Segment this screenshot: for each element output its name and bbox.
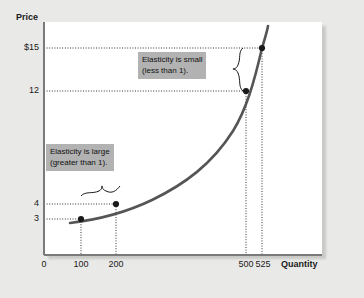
x-tick-label-200: 200 bbox=[101, 259, 131, 269]
y-axis-title: Price bbox=[16, 12, 38, 22]
data-point-200-4 bbox=[113, 201, 119, 207]
data-point-525-15 bbox=[259, 45, 265, 51]
x-tick-label-525: 525 bbox=[248, 259, 278, 269]
x-tick-label-100: 100 bbox=[66, 259, 96, 269]
annotation-small-elasticity: Elasticity is small (less than 1). bbox=[138, 52, 206, 79]
elasticity-supply-curve-figure: Price Quantity $15 12 4 3 0 100 200 500 … bbox=[0, 0, 364, 298]
annotation-large-elasticity: Elasticity is large (greater than 1). bbox=[46, 144, 114, 171]
y-tick-label-12: 12 bbox=[3, 85, 39, 95]
x-axis-title: Quantity bbox=[281, 259, 318, 269]
data-point-100-3 bbox=[78, 216, 84, 222]
brace-vertical-small-elasticity bbox=[233, 48, 243, 91]
brace-horizontal-large-elasticity bbox=[81, 186, 120, 196]
y-tick-label-15: $15 bbox=[3, 42, 39, 52]
x-origin-label: 0 bbox=[34, 259, 54, 269]
y-tick-label-3: 3 bbox=[3, 213, 39, 223]
data-point-500-12 bbox=[243, 88, 249, 94]
y-tick-label-4: 4 bbox=[3, 198, 39, 208]
